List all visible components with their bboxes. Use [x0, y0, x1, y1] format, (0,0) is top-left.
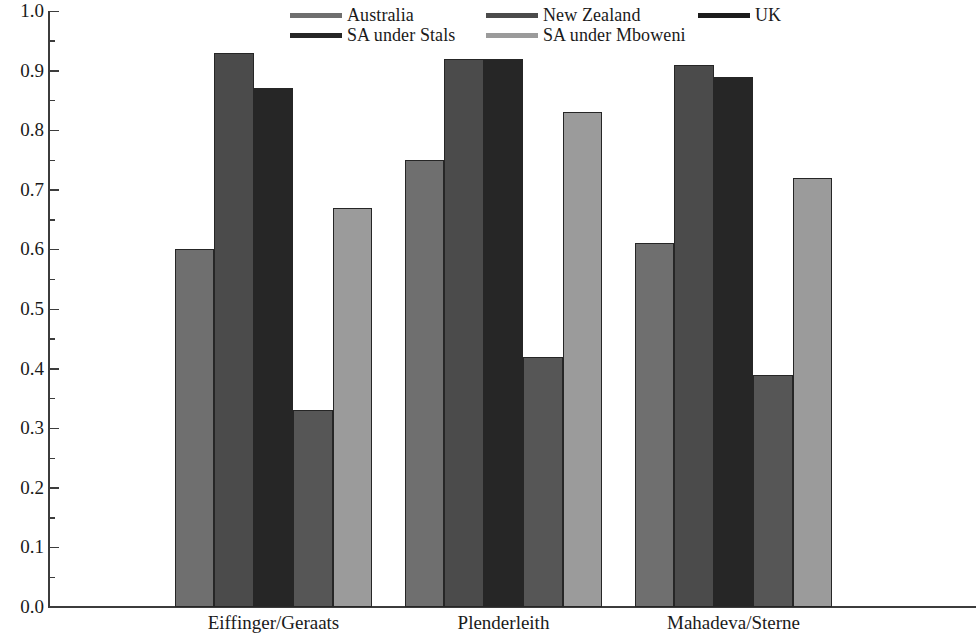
y-axis-major-tick — [50, 249, 59, 251]
y-axis-major-tick — [50, 547, 59, 549]
bar[interactable] — [674, 65, 713, 607]
bar[interactable] — [214, 53, 253, 607]
bar[interactable] — [405, 160, 444, 607]
legend-swatch-new-zealand — [486, 13, 538, 18]
y-axis-tick-label: 0.5 — [0, 299, 44, 318]
y-axis-tick-label: 0.9 — [0, 61, 44, 80]
legend-swatch-sa-under-mboweni — [486, 33, 538, 38]
y-axis-minor-tick — [50, 219, 55, 221]
y-axis-major-tick — [50, 189, 59, 191]
y-axis-tick-label: 0.0 — [0, 597, 44, 616]
legend-label-australia: Australia — [347, 6, 414, 25]
bar[interactable] — [523, 357, 562, 607]
y-axis-tick-label: 0.4 — [0, 359, 44, 378]
y-axis-major-tick — [50, 428, 59, 430]
bar[interactable] — [753, 375, 792, 607]
y-axis-minor-tick — [50, 338, 55, 340]
bar[interactable] — [793, 178, 832, 607]
legend-entry-sa-under-stals[interactable]: SA under Stals — [290, 26, 455, 45]
legend-label-sa-under-mboweni: SA under Mboweni — [543, 26, 686, 45]
bar-chart-figure: Australia New Zealand UK SA under Stals … — [0, 0, 978, 637]
y-axis-major-tick — [50, 607, 59, 609]
legend-label-new-zealand: New Zealand — [543, 6, 641, 25]
bar[interactable] — [333, 208, 372, 607]
y-axis-minor-tick — [50, 160, 55, 162]
y-axis-minor-tick — [50, 100, 55, 102]
y-axis-tick-label: 0.6 — [0, 239, 44, 258]
legend-label-sa-under-stals: SA under Stals — [347, 26, 455, 45]
y-axis-minor-tick — [50, 398, 55, 400]
y-axis-tick-label: 0.2 — [0, 478, 44, 497]
legend-entry-uk[interactable]: UK — [698, 6, 781, 25]
bar[interactable] — [293, 410, 332, 607]
bar[interactable] — [175, 249, 214, 607]
bar[interactable] — [484, 59, 523, 607]
legend-entry-australia[interactable]: Australia — [290, 6, 414, 25]
legend-swatch-australia — [290, 13, 342, 18]
y-axis-major-tick — [50, 309, 59, 311]
bar[interactable] — [635, 243, 674, 607]
y-axis-major-tick — [50, 368, 59, 370]
y-axis-major-tick — [50, 70, 59, 72]
legend-swatch-uk — [698, 13, 750, 18]
y-axis-minor-tick — [50, 577, 55, 579]
y-axis-minor-tick — [50, 517, 55, 519]
legend-swatch-sa-under-stals — [290, 33, 342, 38]
bar[interactable] — [444, 59, 483, 607]
y-axis-major-tick — [50, 130, 59, 132]
legend-label-uk: UK — [755, 6, 781, 25]
legend-row-1: Australia New Zealand UK — [290, 6, 850, 25]
y-axis-minor-tick — [50, 40, 55, 42]
x-axis-category-label: Mahadeva/Sterne — [595, 612, 872, 634]
bar[interactable] — [563, 112, 602, 607]
y-axis-tick-label: 0.7 — [0, 180, 44, 199]
bar[interactable] — [254, 88, 293, 607]
y-axis-major-tick — [50, 11, 59, 13]
legend-row-2: SA under Stals SA under Mboweni — [290, 26, 850, 45]
y-axis-tick-label: 0.1 — [0, 537, 44, 556]
bars-layer — [0, 0, 978, 637]
chart-legend: Australia New Zealand UK SA under Stals … — [290, 6, 850, 48]
y-axis-major-tick — [50, 487, 59, 489]
y-axis-minor-tick — [50, 279, 55, 281]
y-axis-minor-tick — [50, 458, 55, 460]
y-axis-tick-label: 0.8 — [0, 120, 44, 139]
bar[interactable] — [714, 77, 753, 607]
y-axis-tick-label: 1.0 — [0, 1, 44, 20]
y-axis-tick-label: 0.3 — [0, 418, 44, 437]
legend-entry-sa-under-mboweni[interactable]: SA under Mboweni — [486, 26, 686, 45]
legend-entry-new-zealand[interactable]: New Zealand — [486, 6, 641, 25]
